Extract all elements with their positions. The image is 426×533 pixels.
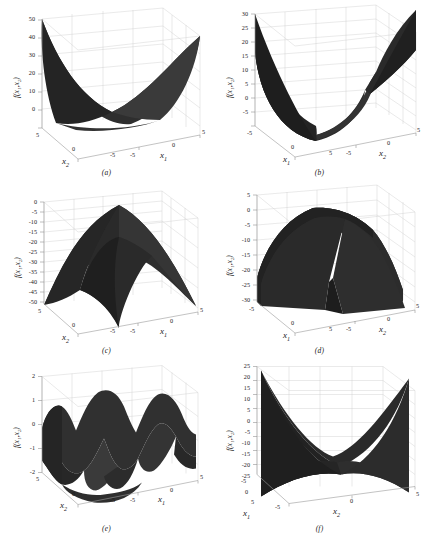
panel-f-ztick-4: 5	[231, 406, 250, 413]
panel-c-ztick-8: -40	[18, 278, 37, 285]
panel-c-ytick-1: 0	[72, 321, 75, 328]
panel-d-xtick-0: -5	[249, 305, 254, 312]
panel-f-ytick-0: -5	[275, 503, 280, 510]
panel-a-xlabel: x1	[160, 150, 167, 162]
panel-e-ztick-2: 0	[20, 420, 35, 427]
panel-a-ylabel: x2	[62, 156, 69, 168]
panel-b-xtick-1: 0	[291, 143, 294, 150]
panel-b-ylabel: x2	[379, 148, 386, 160]
panel-b-xlabel: x1	[283, 154, 290, 166]
panel-d-ylabel: x2	[379, 324, 386, 336]
panel-b-ytick-1: 0	[387, 139, 390, 146]
panel-b-ytick-0: -5	[346, 149, 351, 156]
panel-c-ztick-10: -50	[18, 298, 37, 305]
panel-e-xtick-2: 5	[200, 473, 203, 480]
panel-d-surface	[257, 208, 405, 314]
panel-c-ztick-5: -25	[18, 248, 37, 255]
panel-e: f(x₁,x₂) 2 1 0 -1 -2 5 0 -5 -5 0 5 x2 x1…	[0, 356, 213, 533]
panel-b-xtick-2: 5	[329, 149, 332, 156]
panel-c-ytick-0: 5	[38, 307, 41, 314]
panel-e-ytick-0: 5	[36, 475, 39, 482]
panel-f-ztick-3: 10	[231, 395, 250, 402]
panel-a-ytick-2: -5	[110, 151, 115, 158]
panel-c-xtick-1: 0	[170, 317, 173, 324]
panel-c-ylabel: x2	[62, 332, 69, 344]
panel-f-xtick-2: 5	[251, 498, 254, 505]
panel-b-ztick-3: 15	[231, 52, 248, 59]
panel-c-caption: (c)	[0, 346, 213, 355]
panel-b: f(x₁,x₂) 30 25 20 15 10 5 0 -5 -5 0 5 -5…	[213, 0, 426, 178]
panel-c-xtick-2: 5	[200, 306, 203, 313]
panel-d-xtick-1: 0	[291, 319, 294, 326]
panel-f-ztick-8: -15	[231, 450, 250, 457]
panel-b-ztick-0: 30	[231, 10, 248, 17]
panel-f-ztick-6: -5	[231, 428, 250, 435]
panel-c-ytick-2: -5	[110, 327, 115, 334]
panel-b-ztick-1: 25	[231, 24, 248, 31]
panel-d-ztick-4: -15	[231, 251, 250, 258]
panel-b-xtick-0: -5	[247, 129, 252, 136]
panel-c-ztick-4: -20	[18, 238, 37, 245]
panel-d-xlabel: x1	[283, 330, 290, 342]
panel-a-xtick-2: 5	[202, 128, 205, 135]
panel-a: f(x₁,x₂) 50 40 30 20 10 0 5 0 -5 -5 0 5 …	[0, 0, 213, 178]
panel-e-ztick-3: -1	[20, 444, 35, 451]
panel-f-xtick-1: 0	[245, 488, 248, 495]
panel-f-ztick-1: 20	[231, 373, 250, 380]
panel-f-surface	[261, 371, 409, 497]
panel-c-xlabel: x1	[160, 326, 167, 338]
panel-b-ztick-7: -5	[231, 108, 248, 115]
panel-c-ztick-3: -15	[18, 228, 37, 235]
panel-a-ytick-0: 5	[36, 131, 39, 138]
panel-f: f(x₁,x₂) 25 20 15 10 5 0 -5 -10 -15 -20 …	[213, 356, 426, 533]
panel-a-ztick-3: 20	[20, 69, 35, 76]
panel-a-ztick-2: 30	[20, 51, 35, 58]
panel-c-ztick-0: 0	[18, 198, 37, 205]
panel-e-ylabel: x2	[60, 500, 67, 512]
panel-f-ztick-0: 25	[231, 362, 250, 369]
panel-c-ztick-7: -35	[18, 268, 37, 275]
panel-a-ztick-5: 0	[20, 105, 35, 112]
panel-d-ztick-7: -30	[231, 296, 250, 303]
figure-panel-grid: f(x₁,x₂) 50 40 30 20 10 0 5 0 -5 -5 0 5 …	[0, 0, 426, 533]
panel-a-ytick-1: 0	[72, 145, 75, 152]
panel-b-ztick-2: 20	[231, 38, 248, 45]
panel-a-ztick-4: 10	[20, 87, 35, 94]
panel-e-ytick-2: -5	[110, 496, 115, 503]
panel-a-ztick-1: 40	[20, 33, 35, 40]
panel-c-ztick-9: -45	[18, 288, 37, 295]
panel-e-ytick-1: 0	[72, 490, 75, 497]
panel-a-xtick-0: -5	[130, 151, 135, 158]
panel-f-ztick-5: 0	[231, 417, 250, 424]
panel-c-ztick-2: -10	[18, 218, 37, 225]
panel-d-ztick-2: -5	[231, 221, 250, 228]
panel-d-ytick-1: 0	[387, 315, 390, 322]
panel-d-ztick-5: -20	[231, 266, 250, 273]
panel-b-ztick-6: 0	[231, 94, 248, 101]
panel-c: f(x₁,x₂) 0 -5 -10 -15 -20 -25 -30 -35 -4…	[0, 178, 213, 356]
panel-e-ztick-4: -2	[20, 468, 35, 475]
panel-c-surface	[44, 205, 196, 328]
panel-f-xtick-0: -5	[241, 477, 246, 484]
panel-e-ztick-1: 1	[20, 396, 35, 403]
panel-f-ztick-7: -10	[231, 439, 250, 446]
panel-d: f(x₁,x₂) 5 0 -5 -10 -15 -20 -25 -30 -5 0…	[213, 178, 426, 356]
panel-d-xtick-2: 5	[329, 325, 332, 332]
panel-c-ztick-1: -5	[18, 208, 37, 215]
panel-a-ztick-0: 50	[20, 15, 35, 22]
panel-e-caption: (e)	[0, 524, 213, 533]
panel-e-xtick-0: -5	[130, 496, 135, 503]
panel-d-caption: (d)	[213, 346, 426, 355]
panel-d-ztick-6: -25	[231, 281, 250, 288]
panel-f-ytick-2: 5	[416, 490, 419, 497]
panel-e-ztick-0: 2	[20, 372, 35, 379]
panel-d-ztick-3: -10	[231, 236, 250, 243]
panel-f-ytick-1: 0	[350, 497, 353, 504]
panel-f-caption: (f)	[213, 524, 426, 533]
panel-b-ztick-5: 5	[231, 80, 248, 87]
panel-f-ztick-9: -20	[231, 461, 250, 468]
panel-f-ztick-2: 15	[231, 384, 250, 391]
panel-d-ztick-0: 5	[231, 191, 250, 198]
panel-c-ztick-6: -30	[18, 258, 37, 265]
panel-d-ytick-0: -5	[346, 325, 351, 332]
